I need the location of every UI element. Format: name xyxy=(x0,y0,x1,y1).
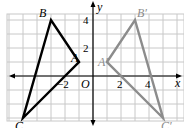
coordinate-plane-diagram: xyO −22424 ABCA′B′C′ xyxy=(0,0,184,128)
y-axis-arrow-up-icon xyxy=(91,1,96,7)
grid-border xyxy=(7,14,184,121)
y-tick-label: 2 xyxy=(83,42,89,54)
vertex-label: C′ xyxy=(161,119,172,128)
x-axis-arrow-left-icon xyxy=(9,74,15,79)
vertex-label: B′ xyxy=(137,6,147,20)
y-axis-label: y xyxy=(96,0,103,14)
x-axis-label: x xyxy=(174,76,181,90)
vertex-label: A xyxy=(70,51,79,65)
plot-canvas: xyO −22424 ABCA′B′C′ xyxy=(0,0,184,128)
grid-lines xyxy=(7,14,184,121)
vertex-label: B xyxy=(39,6,47,20)
vertex-label: C xyxy=(15,119,24,128)
vertex-label: A′ xyxy=(97,55,108,69)
x-tick-label: 2 xyxy=(117,78,123,90)
y-axis-arrow-down-icon xyxy=(91,120,96,126)
y-tick-label: 4 xyxy=(83,14,89,26)
origin-label: O xyxy=(81,77,90,91)
x-tick-label: 4 xyxy=(145,78,151,90)
